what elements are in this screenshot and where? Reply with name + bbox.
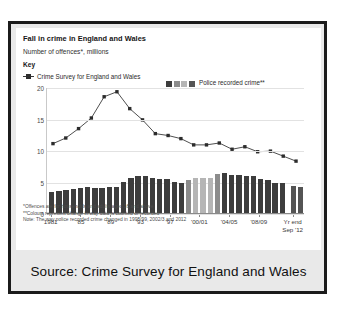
legend-swatch-0 (166, 81, 172, 87)
data-point-marker (51, 142, 54, 145)
data-point-marker (218, 141, 221, 144)
data-point-marker (64, 136, 67, 139)
footnote-1: *Offences are for households and adults … (23, 204, 313, 211)
line-marker-icon (23, 74, 34, 80)
data-point-marker (77, 127, 80, 130)
source-text: Source: Crime Survey for England and Wal… (30, 264, 306, 279)
y-axis-tick-10: 10 (37, 148, 44, 155)
data-point-marker (102, 95, 105, 98)
gridline-15 (47, 120, 304, 121)
chart-footnotes: *Offences are for households and adults … (23, 204, 313, 224)
chart-panel: Fall in crime in England and Wales Numbe… (16, 28, 321, 250)
data-point-marker (282, 154, 285, 157)
data-point-marker (128, 107, 131, 110)
legend-swatch-2 (181, 81, 187, 87)
legend-item-crime-survey: Crime Survey for England and Wales (23, 73, 140, 80)
footnote-2: **Colours represent change in way data i… (23, 211, 313, 218)
data-point-marker (205, 143, 208, 146)
chart-card-frame: Fall in crime in England and Wales Numbe… (8, 21, 327, 294)
plot-area: 05101520 (46, 88, 304, 214)
y-axis-tick-20: 20 (37, 85, 44, 92)
y-axis-tick-15: 15 (37, 116, 44, 123)
legend-label-police-recorded: Police recorded crime** (199, 79, 265, 86)
data-point-marker (154, 132, 157, 135)
chart-title: Fall in crime in England and Wales (23, 34, 146, 43)
legend-label-crime-survey: Crime Survey for England and Wales (37, 73, 140, 80)
legend-swatch-1 (174, 81, 180, 87)
data-point-marker (192, 143, 195, 146)
data-point-marker (166, 134, 169, 137)
y-axis-tick-5: 5 (40, 179, 44, 186)
chart-subtitle: Number of offences*, millions (23, 48, 109, 55)
data-point-marker (115, 90, 118, 93)
chart-legend: Crime Survey for England and Wales Polic… (23, 73, 313, 83)
key-label: Key (23, 61, 35, 68)
legend-swatch-3 (189, 81, 195, 87)
data-point-marker (243, 145, 246, 148)
source-banner: Source: Crime Survey for England and Wal… (16, 253, 321, 289)
gridline-10 (47, 151, 304, 152)
data-point-marker (179, 137, 182, 140)
footnote-3: Note: The way police recorded crime chan… (23, 217, 313, 224)
data-point-marker (294, 159, 297, 162)
gridline-20 (47, 88, 304, 89)
